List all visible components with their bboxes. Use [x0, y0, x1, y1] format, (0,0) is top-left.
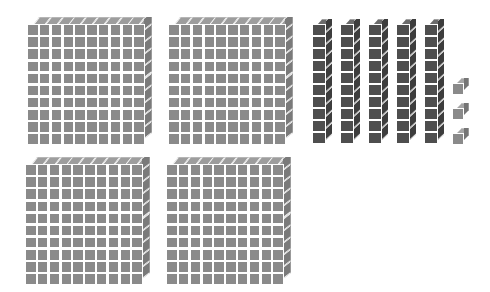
rod-unit-cell: [396, 48, 410, 60]
flat-unit-cell: [203, 97, 215, 109]
flat-unit-cell: [39, 60, 51, 72]
flat-unit-cell: [262, 48, 274, 60]
unit-right-facet: [464, 103, 469, 120]
unit-front-face: [452, 108, 464, 120]
flat-unit-cell: [86, 24, 98, 36]
flat-unit-cell: [239, 24, 251, 36]
flat-unit-cell: [249, 261, 261, 273]
flat-unit-cell: [225, 200, 237, 212]
rod-unit-cell: [340, 60, 354, 72]
flat-cell-grid: [168, 24, 286, 145]
flat-unit-cell: [108, 200, 120, 212]
flat-unit-cell: [178, 273, 190, 285]
flat-unit-cell: [49, 212, 61, 224]
flat-unit-cell: [119, 176, 131, 188]
flat-unit-cell: [27, 36, 39, 48]
flat-unit-cell: [201, 164, 213, 176]
rod-unit-cell: [312, 72, 326, 84]
rod-unit-cell: [368, 84, 382, 96]
rod-unit-cell: [424, 132, 438, 144]
rod-unit-cell: [396, 132, 410, 144]
flat-unit-cell: [237, 188, 249, 200]
flat-unit-cell: [25, 249, 37, 261]
flat-unit-cell: [249, 273, 261, 285]
rod-unit-cell: [340, 48, 354, 60]
flat-unit-cell: [131, 261, 143, 273]
flat-unit-cell: [96, 188, 108, 200]
flat-unit-cell: [121, 24, 133, 36]
flat-unit-cell: [239, 109, 251, 121]
flat-unit-cell: [51, 133, 63, 145]
flat-unit-cell: [62, 24, 74, 36]
flat-unit-cell: [201, 249, 213, 261]
flat-unit-cell: [51, 24, 63, 36]
flat-unit-cell: [25, 188, 37, 200]
flat-unit-cell: [74, 48, 86, 60]
flat-unit-cell: [260, 261, 272, 273]
flat-unit-cell: [60, 273, 72, 285]
flat-unit-cell: [239, 60, 251, 72]
flat-unit-cell: [121, 48, 133, 60]
flat-unit-cell: [60, 176, 72, 188]
flat-unit-cell: [74, 36, 86, 48]
rod-unit-cell: [368, 108, 382, 120]
flat-unit-cell: [180, 60, 192, 72]
rod-unit-cell: [312, 48, 326, 60]
flat-unit-cell: [213, 200, 225, 212]
flat-unit-cell: [39, 121, 51, 133]
flat-unit-cell: [272, 273, 284, 285]
rod-unit-cell: [340, 24, 354, 36]
rod-unit-cell: [340, 84, 354, 96]
flat-right-facet: [285, 17, 293, 145]
flat-cell-grid: [166, 164, 284, 285]
flat-unit-cell: [121, 121, 133, 133]
flat-unit-cell: [25, 176, 37, 188]
flat-unit-cell: [215, 109, 227, 121]
flat-unit-cell: [98, 48, 110, 60]
flat-unit-cell: [180, 36, 192, 48]
flat-unit-cell: [60, 225, 72, 237]
flat-unit-cell: [119, 237, 131, 249]
flat-cell-grid: [27, 24, 145, 145]
flat-unit-cell: [213, 188, 225, 200]
flat-unit-cell: [84, 225, 96, 237]
flat-unit-cell: [62, 97, 74, 109]
flat-unit-cell: [192, 36, 204, 48]
flat-unit-cell: [51, 121, 63, 133]
rod-unit-cell: [396, 84, 410, 96]
tens-rod: [368, 19, 388, 144]
flat-unit-cell: [131, 249, 143, 261]
flat-unit-cell: [72, 212, 84, 224]
flat-unit-cell: [108, 261, 120, 273]
hundreds-flat: [168, 17, 293, 145]
flat-unit-cell: [108, 188, 120, 200]
flat-unit-cell: [98, 24, 110, 36]
flat-unit-cell: [51, 72, 63, 84]
rod-unit-cell: [396, 108, 410, 120]
flat-unit-cell: [166, 225, 178, 237]
flat-unit-cell: [121, 36, 133, 48]
flat-unit-cell: [37, 261, 49, 273]
flat-unit-cell: [227, 72, 239, 84]
flat-unit-cell: [237, 200, 249, 212]
flat-unit-cell: [39, 133, 51, 145]
rod-unit-cell: [340, 36, 354, 48]
flat-unit-cell: [27, 109, 39, 121]
flat-unit-cell: [166, 237, 178, 249]
rod-unit-cell: [312, 96, 326, 108]
flat-unit-cell: [84, 249, 96, 261]
flat-unit-cell: [27, 133, 39, 145]
flat-unit-cell: [260, 273, 272, 285]
flat-unit-cell: [39, 72, 51, 84]
flat-unit-cell: [192, 48, 204, 60]
flat-unit-cell: [72, 273, 84, 285]
rod-unit-cell: [424, 72, 438, 84]
flat-unit-cell: [192, 24, 204, 36]
flat-unit-cell: [166, 273, 178, 285]
flat-unit-cell: [274, 85, 286, 97]
flat-unit-cell: [121, 72, 133, 84]
flat-unit-cell: [131, 176, 143, 188]
unit-right-facet: [464, 78, 469, 95]
rod-unit-cell: [368, 36, 382, 48]
flat-unit-cell: [108, 237, 120, 249]
